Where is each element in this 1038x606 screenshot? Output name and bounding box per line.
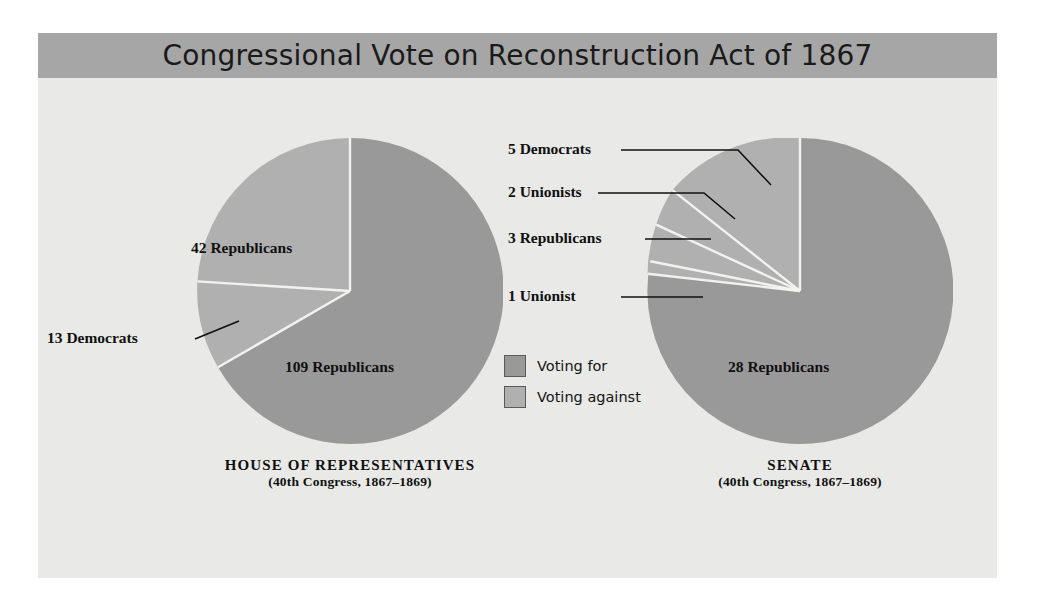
house-pie-svg bbox=[197, 138, 503, 444]
senate-caption-sub: (40th Congress, 1867–1869) bbox=[620, 474, 980, 490]
chart-panel: Congressional Vote on Reconstruction Act… bbox=[38, 33, 997, 578]
label-senate-5-democrats: 5 Democrats bbox=[508, 140, 591, 158]
house-slice-13-democrats bbox=[197, 138, 350, 291]
legend-label-voting-for: Voting for bbox=[537, 358, 607, 374]
page-title: Congressional Vote on Reconstruction Act… bbox=[162, 39, 872, 72]
title-bar: Congressional Vote on Reconstruction Act… bbox=[38, 33, 997, 78]
house-caption-main: HOUSE OF REPRESENTATIVES bbox=[170, 456, 530, 474]
legend-swatch-voting-for bbox=[504, 355, 526, 377]
label-house-42-republicans: 42 Republicans bbox=[191, 239, 292, 257]
label-senate-28-republicans: 28 Republicans bbox=[728, 358, 829, 376]
label-house-109-republicans: 109 Republicans bbox=[285, 358, 394, 376]
legend: Voting for Voting against bbox=[504, 355, 641, 417]
house-pie-chart bbox=[197, 138, 503, 444]
legend-item-voting-for: Voting for bbox=[504, 355, 641, 377]
label-senate-2-unionists: 2 Unionists bbox=[508, 183, 582, 201]
house-caption: HOUSE OF REPRESENTATIVES (40th Congress,… bbox=[170, 456, 530, 491]
figure-root: Congressional Vote on Reconstruction Act… bbox=[0, 0, 1038, 606]
house-caption-sub: (40th Congress, 1867–1869) bbox=[170, 474, 530, 490]
label-senate-1-unionist: 1 Unionist bbox=[508, 287, 576, 305]
legend-item-voting-against: Voting against bbox=[504, 386, 641, 408]
senate-pie-svg bbox=[647, 138, 953, 444]
senate-caption: SENATE (40th Congress, 1867–1869) bbox=[620, 456, 980, 491]
senate-caption-main: SENATE bbox=[620, 456, 980, 474]
label-senate-3-republicans: 3 Republicans bbox=[508, 229, 601, 247]
label-house-13-democrats: 13 Democrats bbox=[47, 329, 138, 347]
senate-pie-chart bbox=[647, 138, 953, 444]
legend-label-voting-against: Voting against bbox=[537, 389, 641, 405]
legend-swatch-voting-against bbox=[504, 386, 526, 408]
